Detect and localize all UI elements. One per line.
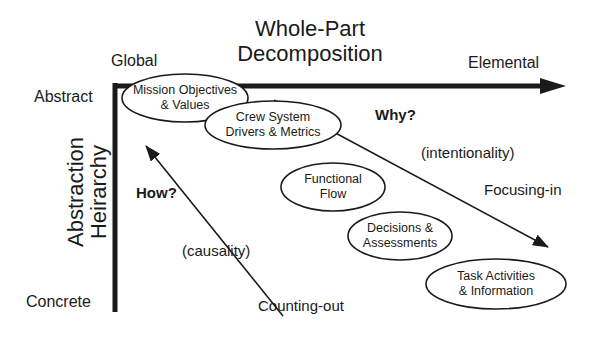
level-text-line2: Flow	[281, 187, 385, 202]
title-line1: Whole-Part	[225, 16, 395, 41]
level-text-line2: Drivers & Metrics	[205, 125, 341, 140]
level-crew-system-drivers: Crew System Drivers & Metrics	[205, 110, 341, 141]
level-text-line1: Decisions &	[348, 221, 452, 236]
focusing-in-label: Focusing-in	[484, 182, 562, 197]
level-functional-flow: Functional Flow	[281, 172, 385, 203]
level-mission-objectives: Mission Objectives & Values	[122, 83, 248, 114]
axis-label-global: Global	[111, 53, 157, 69]
causality-label: (causality)	[182, 243, 250, 258]
title-line2: Decomposition	[225, 41, 395, 66]
why-label: Why?	[375, 107, 416, 122]
vertical-title-line1: Abstraction	[64, 112, 87, 272]
diagram-title: Whole-Part Decomposition	[225, 16, 395, 67]
vertical-title-line2: Heirarchy	[87, 112, 110, 272]
level-text-line1: Task Activities	[426, 269, 566, 284]
counting-out-arrow	[146, 146, 283, 316]
abstraction-hierarchy-title: Abstraction Heirarchy	[64, 112, 112, 272]
level-decisions-assessments: Decisions & Assessments	[348, 221, 452, 252]
how-label: How?	[136, 185, 177, 200]
axis-label-concrete: Concrete	[26, 294, 91, 310]
level-text-line1: Functional	[281, 172, 385, 187]
axis-label-elemental: Elemental	[468, 55, 539, 71]
level-text-line2: & Information	[426, 284, 566, 299]
counting-out-label: Counting-out	[258, 298, 344, 313]
intentionality-label: (intentionality)	[421, 145, 514, 160]
level-task-activities: Task Activities & Information	[426, 269, 566, 300]
level-text-line1: Mission Objectives	[122, 83, 248, 98]
level-text-line2: Assessments	[348, 236, 452, 251]
level-text-line1: Crew System	[205, 110, 341, 125]
axis-label-abstract: Abstract	[34, 89, 93, 105]
